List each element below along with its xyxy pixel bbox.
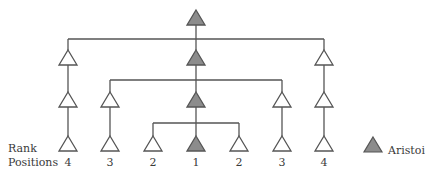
aristoi-triangle-icon-r4-1 — [187, 136, 205, 151]
rank-position-number: 4 — [65, 156, 72, 169]
member-triangle-icon-r3-4L — [59, 92, 77, 107]
member-triangle-icon-r4-3R — [273, 136, 291, 151]
member-triangle-icon-r4-2L — [144, 136, 162, 151]
legend-aristoi-label: Aristoi — [388, 145, 425, 157]
rank-position-number: 3 — [279, 156, 286, 169]
aristoi-triangle-icon-top — [187, 10, 205, 25]
rank-position-number: 2 — [150, 156, 157, 169]
member-triangle-icon-r2-right — [315, 50, 333, 65]
rank-position-number: 3 — [107, 156, 114, 169]
member-triangle-icon-r4-3L — [101, 136, 119, 151]
rank-position-number: 2 — [236, 156, 243, 169]
member-triangle-icon-r4-2R — [230, 136, 248, 151]
member-triangle-icon-r3-4R — [315, 92, 333, 107]
rank-position-number: 4 — [321, 156, 328, 169]
positions-label: Positions — [8, 157, 58, 169]
member-triangle-icon-r4-4R — [315, 136, 333, 151]
member-triangle-icon-r3-3R — [273, 92, 291, 107]
member-triangle-icon-r4-4L — [59, 136, 77, 151]
aristoi-triangle-icon-r3-center — [187, 92, 205, 107]
aristoi-triangle-icon-r2-center — [187, 50, 205, 65]
legend-aristoi-triangle-icon — [364, 137, 382, 152]
connector-lines — [68, 25, 324, 136]
member-triangle-icon-r2-left — [59, 50, 77, 65]
member-triangle-icon-r3-3L — [101, 92, 119, 107]
rank-label: Rank — [8, 143, 37, 155]
rank-position-number: 1 — [193, 156, 200, 169]
